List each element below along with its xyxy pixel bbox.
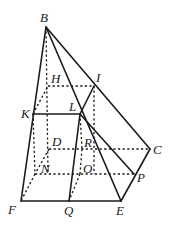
edge-L-R bbox=[80, 114, 82, 149]
label-H: H bbox=[50, 71, 61, 86]
edge-R-O bbox=[80, 149, 82, 174]
edge-L-I bbox=[80, 86, 94, 114]
edge-C-E bbox=[121, 149, 150, 201]
label-C: C bbox=[153, 142, 162, 157]
point-labels: B H I K L D R C N O P F Q E bbox=[7, 10, 162, 218]
label-R: R bbox=[83, 135, 92, 150]
edge-B-N bbox=[46, 27, 48, 174]
edge-K-N bbox=[33, 114, 35, 174]
label-F: F bbox=[7, 202, 17, 217]
edge-B-C bbox=[46, 27, 150, 149]
label-B: B bbox=[40, 10, 48, 25]
label-D: D bbox=[51, 134, 62, 149]
label-L: L bbox=[68, 99, 76, 114]
label-I: I bbox=[95, 70, 101, 85]
label-P: P bbox=[136, 170, 145, 185]
geometry-diagram: B H I K L D R C N O P F Q E bbox=[0, 0, 170, 225]
label-Q: Q bbox=[64, 203, 74, 218]
label-K: K bbox=[20, 106, 31, 121]
label-O: O bbox=[83, 161, 93, 176]
label-E: E bbox=[115, 203, 124, 218]
label-N: N bbox=[40, 161, 51, 176]
